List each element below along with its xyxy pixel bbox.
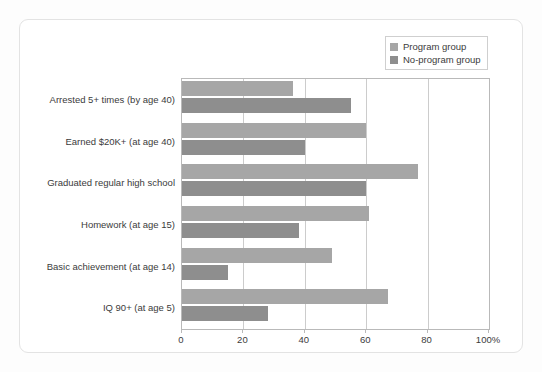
plot-area	[181, 78, 490, 330]
bar-no-program-group	[182, 140, 305, 155]
legend-swatch-program-group	[390, 43, 398, 51]
bar-program-group	[182, 81, 293, 96]
chart-legend: Program group No-program group	[385, 36, 488, 70]
bar-no-program-group	[182, 223, 299, 238]
bar-program-group	[182, 206, 369, 221]
x-axis-tick-label: 60	[360, 334, 371, 345]
x-axis-tick-label: 20	[237, 334, 248, 345]
bar-group	[182, 246, 489, 288]
bar-no-program-group	[182, 265, 228, 280]
legend-item-program-group: Program group	[390, 40, 481, 53]
bar-program-group	[182, 248, 332, 263]
y-axis-labels: Arrested 5+ times (by age 40)Earned $20K…	[8, 78, 175, 328]
bar-group	[182, 79, 489, 121]
y-axis-tick-label: Arrested 5+ times (by age 40)	[10, 93, 175, 104]
bar-program-group	[182, 289, 388, 304]
x-axis-tick-label: 100%	[476, 334, 500, 345]
x-axis-tick-mark	[488, 329, 489, 333]
bar-program-group	[182, 123, 366, 138]
x-axis-tick-mark	[427, 329, 428, 333]
chart-figure: Program group No-program group Arrested …	[0, 0, 542, 372]
legend-item-no-program-group: No-program group	[390, 53, 481, 66]
bar-group	[182, 204, 489, 246]
y-axis-tick-label: Graduated regular high school	[10, 177, 175, 188]
x-axis-tick-label: 0	[178, 334, 183, 345]
y-axis-tick-label: Earned $20K+ (at age 40)	[10, 135, 175, 146]
bar-group	[182, 287, 489, 329]
bar-group	[182, 121, 489, 163]
y-axis-tick-label: IQ 90+ (at age 5)	[10, 302, 175, 313]
bar-no-program-group	[182, 306, 268, 321]
legend-label-no-program-group: No-program group	[403, 53, 481, 66]
x-axis-tick-mark	[304, 329, 305, 333]
bar-group	[182, 162, 489, 204]
y-axis-tick-label: Homework (at age 15)	[10, 218, 175, 229]
x-axis-tick-label: 40	[299, 334, 310, 345]
legend-label-program-group: Program group	[403, 40, 466, 53]
bar-no-program-group	[182, 98, 351, 113]
x-axis-tick-mark	[181, 329, 182, 333]
bar-program-group	[182, 164, 418, 179]
bar-no-program-group	[182, 181, 366, 196]
x-axis-tick-mark	[242, 329, 243, 333]
x-axis-tick-label: 80	[421, 334, 432, 345]
legend-swatch-no-program-group	[390, 56, 398, 64]
y-axis-tick-label: Basic achievement (at age 14)	[10, 260, 175, 271]
x-axis-tick-mark	[365, 329, 366, 333]
